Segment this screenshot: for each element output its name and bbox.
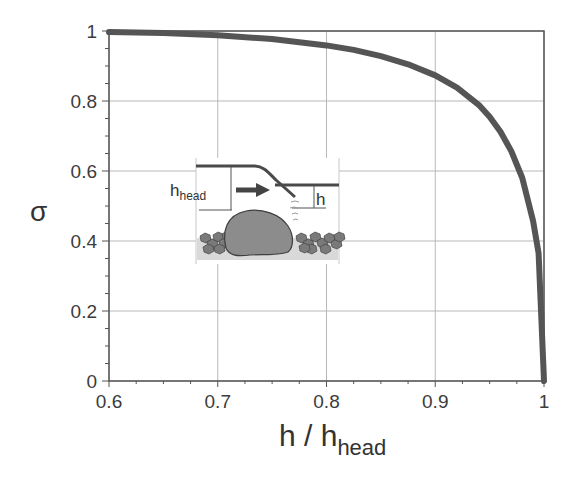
x-axis-title: h / hhead — [279, 419, 386, 460]
y-tick-label: 0.8 — [71, 91, 97, 112]
y-tick-label: 0.6 — [71, 161, 97, 182]
x-tick-label: 0.8 — [313, 391, 339, 412]
inset-label-tail: h — [316, 190, 325, 209]
x-tick-label: 0.6 — [96, 391, 122, 412]
x-tick-label: 0.9 — [422, 391, 448, 412]
chart: 00.20.40.60.81 0.60.70.80.91 hhead h σ h… — [0, 0, 575, 479]
y-tick-label: 0.2 — [71, 301, 97, 322]
y-tick-labels: 00.20.40.60.81 — [71, 21, 98, 392]
x-tick-labels: 0.60.70.80.91 — [96, 391, 550, 412]
x-tick-label: 0.7 — [205, 391, 231, 412]
x-tick-label: 1 — [539, 391, 550, 412]
inset-diagram: hhead h — [170, 158, 345, 264]
y-tick-label: 1 — [86, 21, 97, 42]
y-axis-title: σ — [30, 196, 47, 227]
y-tick-label: 0 — [86, 371, 97, 392]
y-tick-label: 0.4 — [71, 231, 98, 252]
